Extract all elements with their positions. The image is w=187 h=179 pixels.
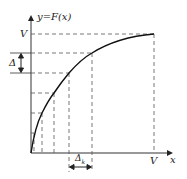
x-axis-label: x <box>170 155 176 165</box>
delta-k-subscript: k <box>82 158 86 165</box>
delta-label: Δ <box>9 58 16 68</box>
vertical-levels <box>34 34 154 172</box>
cdf-diagram: y=F(x) V Δ V x Δk <box>0 0 187 179</box>
delta-k-label: Δk <box>75 154 85 165</box>
y-axis-label: y=F(x) <box>37 12 71 22</box>
delta-arrow-icon <box>19 54 24 73</box>
horizontal-levels <box>31 34 154 133</box>
x-right-label: V <box>150 156 157 166</box>
y-top-label: V <box>20 29 27 39</box>
cdf-curve <box>31 34 154 153</box>
delta-k-arrow-icon <box>70 165 92 170</box>
diagram-graphics <box>0 0 187 179</box>
